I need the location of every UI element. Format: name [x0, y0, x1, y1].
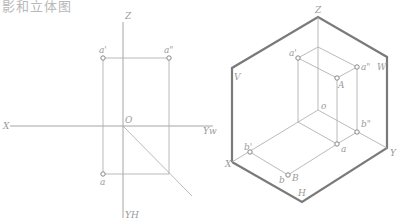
- edge-a-prime-A: [298, 58, 337, 78]
- oy-axis: [318, 110, 387, 148]
- edge-top-a-double-prime: [318, 47, 357, 67]
- label-b-prime: b': [244, 142, 252, 152]
- label-w: W: [377, 62, 387, 72]
- point-a: [101, 172, 105, 176]
- label-z: Z: [124, 11, 132, 21]
- label-a-double-prime: a": [164, 45, 174, 55]
- label-y-3d: Y: [390, 148, 397, 158]
- label-A: A: [337, 80, 345, 90]
- frame-hexagon: [232, 17, 387, 202]
- label-z-3d: Z: [314, 5, 322, 15]
- edge-A-a-double-prime: [337, 67, 357, 78]
- label-o: O: [125, 115, 133, 125]
- point-a-double-prime-3d: [355, 65, 359, 69]
- label-a-prime: a': [99, 45, 107, 55]
- label-a-3d: a: [341, 144, 346, 154]
- floor-line-1: [298, 122, 337, 144]
- point-B: [286, 173, 290, 177]
- label-yh: YH: [125, 210, 139, 220]
- point-a-3d: [335, 142, 339, 146]
- floor-line-2: [337, 132, 357, 144]
- label-a-prime-3d: a': [289, 48, 297, 58]
- label-v: V: [234, 72, 242, 82]
- point-b-double-prime: [355, 130, 359, 134]
- ox-axis: [232, 110, 318, 162]
- miter-line: [123, 126, 192, 196]
- axonometric-drawing: Z V a' a" W A o b" b' a X Y b B H: [224, 5, 397, 202]
- point-a-prime: [101, 56, 105, 60]
- point-a-double-prime: [167, 56, 171, 60]
- label-a-double-prime-3d: a": [361, 62, 371, 72]
- label-b: b: [279, 175, 285, 185]
- label-yw: Yw: [203, 126, 217, 136]
- floor-line-b-prime-b: [250, 152, 288, 175]
- floor-line-a-b: [288, 144, 337, 175]
- label-B: B: [291, 173, 299, 183]
- label-b-double-prime: b": [361, 119, 371, 129]
- label-o-3d: o: [321, 101, 327, 111]
- label-x: X: [2, 121, 10, 131]
- label-h: H: [297, 188, 306, 198]
- label-a: a: [100, 177, 105, 187]
- label-x-3d: X: [224, 159, 232, 169]
- projection-drawing: Z a' a" X O Yw a YH: [2, 11, 217, 220]
- edge-a-prime-top: [298, 47, 318, 58]
- diagram-canvas: Z a' a" X O Yw a YH: [0, 0, 401, 220]
